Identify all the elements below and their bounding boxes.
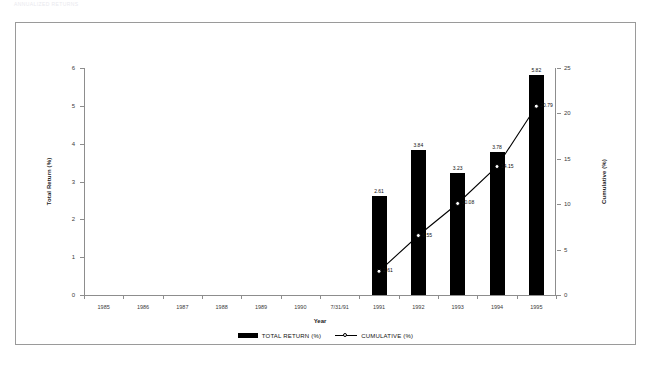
y-axis-right-tick (557, 250, 561, 251)
line-marker (416, 234, 420, 238)
line-circle-swatch-icon (335, 332, 357, 339)
y-axis-right-tick-label: 5 (564, 247, 586, 253)
y-axis-right-tick (557, 68, 561, 69)
y-axis-left-title: Total Return (%) (46, 68, 52, 295)
x-axis-tick (438, 295, 439, 299)
x-axis-tick (202, 295, 203, 299)
x-axis-tick (123, 295, 124, 299)
x-axis-tick (163, 295, 164, 299)
cumulative-data-label: 14.15 (501, 164, 514, 169)
x-axis-tick (241, 295, 242, 299)
x-axis-tick (399, 295, 400, 299)
line-series-cumulative (84, 68, 556, 295)
plot-area: Total Return (%) Cumulative (%) Year 012… (84, 68, 556, 295)
y-axis-right-tick-label: 10 (564, 201, 586, 207)
y-axis-left-tick-label: 2 (53, 216, 75, 222)
y-axis-right-tick-label: 15 (564, 156, 586, 162)
line-marker (495, 165, 499, 169)
x-axis-tick (517, 295, 518, 299)
y-axis-left-tick-label: 3 (53, 179, 75, 185)
x-axis-tick (84, 295, 85, 299)
line-marker (534, 104, 538, 108)
y-axis-right-tick-label: 0 (564, 292, 586, 298)
legend-item-total-return: TOTAL RETURN (%) (238, 333, 321, 339)
legend-label-total-return: TOTAL RETURN (%) (262, 333, 321, 339)
y-axis-left-tick-label: 5 (53, 103, 75, 109)
x-axis-title: Year (84, 318, 556, 324)
x-axis-tick (359, 295, 360, 299)
cumulative-data-label: 2.61 (383, 268, 393, 273)
line-marker (377, 269, 381, 273)
x-axis-tick (477, 295, 478, 299)
y-axis-right-tick (557, 295, 561, 296)
y-axis-right-tick (557, 204, 561, 205)
document-header-text: ANNUALIZED RETURNS (14, 1, 78, 7)
y-axis-right-tick (557, 113, 561, 114)
x-axis-tick (281, 295, 282, 299)
cumulative-data-label: 6.55 (422, 233, 432, 238)
bar-swatch-icon (238, 333, 258, 338)
x-axis-tick (556, 295, 557, 299)
line-marker (456, 201, 460, 205)
legend-item-cumulative: CUMULATIVE (%) (335, 332, 413, 339)
x-axis-tick-label: 1995 (513, 304, 559, 310)
chart-frame: Total Return (%) Cumulative (%) Year 012… (15, 22, 636, 345)
y-axis-left-tick-label: 0 (53, 292, 75, 298)
y-axis-left-tick-label: 4 (53, 141, 75, 147)
x-axis-tick (320, 295, 321, 299)
y-axis-right-tick (557, 159, 561, 160)
legend-label-cumulative: CUMULATIVE (%) (361, 333, 413, 339)
y-axis-right-tick-label: 25 (564, 65, 586, 71)
y-axis-right-title: Cumulative (%) (601, 68, 607, 295)
y-axis-left-tick-label: 1 (53, 254, 75, 260)
y-axis-right-tick-label: 20 (564, 110, 586, 116)
cumulative-data-label: 10.08 (462, 200, 475, 205)
y-axis-left-tick-label: 6 (53, 65, 75, 71)
chart-legend: TOTAL RETURN (%) CUMULATIVE (%) (16, 332, 635, 339)
cumulative-data-label: 20.79 (540, 103, 553, 108)
